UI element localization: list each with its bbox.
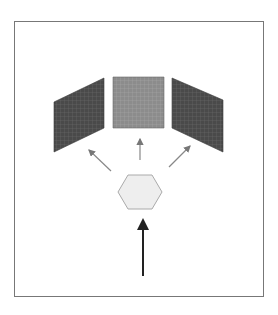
hexagon-source bbox=[118, 175, 162, 209]
diagram-frame bbox=[15, 22, 264, 297]
arrow-to-left-panel bbox=[89, 150, 111, 171]
center-panel bbox=[113, 77, 164, 128]
right-panel bbox=[172, 78, 223, 152]
left-panel bbox=[54, 78, 104, 152]
arrow-to-right-panel bbox=[169, 146, 190, 167]
diagram-canvas bbox=[0, 0, 278, 315]
